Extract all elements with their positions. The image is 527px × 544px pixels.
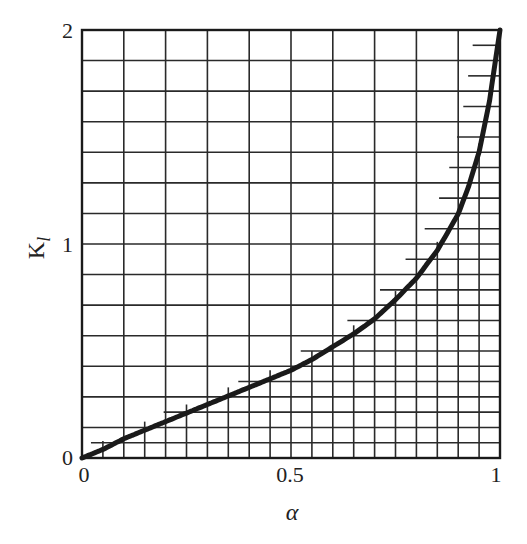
svg-text:Kl: Kl xyxy=(23,237,54,259)
y-axis-label-main: K xyxy=(23,241,49,259)
x-axis-label: α xyxy=(286,499,299,525)
y-tick-0: 0 xyxy=(62,445,73,470)
x-tick-0: 0 xyxy=(79,462,90,487)
y-tick-1: 1 xyxy=(62,232,73,257)
chart: 2 1 0 0 0.5 1 α Kl xyxy=(0,0,527,544)
y-axis-label-subscript: l xyxy=(34,237,54,242)
y-tick-2: 2 xyxy=(62,18,73,43)
x-tick-0.5: 0.5 xyxy=(276,462,304,487)
x-tick-1: 1 xyxy=(491,462,502,487)
y-axis-label: Kl xyxy=(23,237,54,259)
